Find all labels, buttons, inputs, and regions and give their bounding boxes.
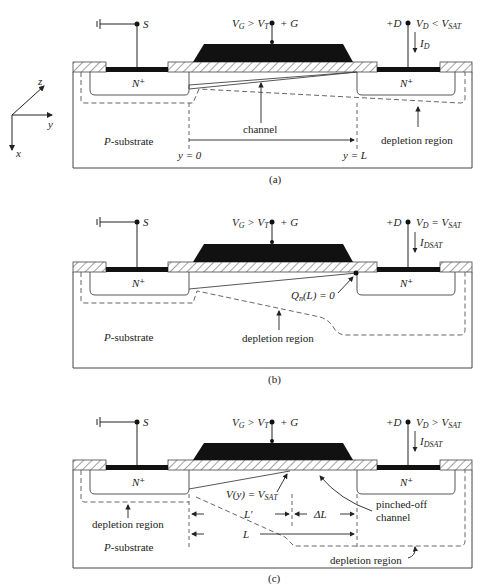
field-oxide-right <box>440 62 472 72</box>
panel-a: N⁺ N⁺ channel depletion region P-substra… <box>73 17 472 186</box>
gate-terminal-label: + G <box>280 416 298 428</box>
channel-region <box>189 471 290 489</box>
source-terminal-label: S <box>143 416 149 428</box>
caption-c: (c) <box>268 572 281 585</box>
drain-condition: VD = VSAT <box>416 216 462 230</box>
y0-label: y = 0 <box>177 149 202 161</box>
channel-region <box>189 72 357 89</box>
gate-electrode <box>193 443 353 460</box>
pinch-label: Qn(L) = 0 <box>291 289 335 303</box>
gate-terminal-label: + G <box>280 216 298 228</box>
panel-c: N⁺ N⁺ V(y) = VSAT pinched-off channel de… <box>73 416 472 585</box>
current-label: ID <box>419 37 430 51</box>
n-plus-left-label: N⁺ <box>131 77 145 89</box>
channel-region <box>189 273 357 289</box>
gate-condition: VG > VT <box>232 216 269 230</box>
gate-oxide <box>168 62 377 72</box>
depletion-region-label: depletion region <box>381 134 453 146</box>
pinch-off-point <box>354 271 359 276</box>
delta-l-label: ΔL <box>313 508 327 520</box>
vsat-label: V(y) = VSAT <box>226 488 278 502</box>
substrate-label: P-substrate <box>103 541 154 553</box>
channel-label: channel <box>376 511 410 523</box>
depletion-region-label: depletion region <box>242 332 314 344</box>
n-plus-left-label: N⁺ <box>131 476 145 488</box>
depletion-right-label: depletion region <box>330 554 402 566</box>
drain-terminal-label: +D <box>386 216 401 228</box>
gate-condition: VG > VT <box>232 416 269 430</box>
substrate-label: P-substrate <box>103 135 154 147</box>
caption-b: (b) <box>268 373 281 386</box>
channel-label: channel <box>243 123 277 135</box>
n-plus-left-label: N⁺ <box>131 277 145 289</box>
current-label: IDSAT <box>419 236 443 250</box>
drain-terminal-label: +D <box>386 416 401 428</box>
drain-contact <box>377 67 440 72</box>
source-contact <box>106 67 168 72</box>
gate-terminal-label: + G <box>280 17 298 29</box>
drain-condition: VD > VSAT <box>416 416 462 430</box>
source-terminal-label: S <box>143 18 149 30</box>
source-terminal-label: S <box>143 216 149 228</box>
y-axis-label: y <box>47 118 53 130</box>
yL-label: y = L <box>342 149 367 161</box>
drain-condition: VD < VSAT <box>416 17 462 31</box>
caption-a: (a) <box>269 173 282 186</box>
l-prime-label: L' <box>243 508 253 520</box>
n-plus-right-label: N⁺ <box>399 277 413 289</box>
n-plus-right-label: N⁺ <box>399 476 413 488</box>
n-plus-right-label: N⁺ <box>399 77 413 89</box>
field-oxide-left <box>73 62 106 72</box>
x-axis-label: x <box>15 147 21 159</box>
gate-electrode <box>193 44 353 62</box>
depletion-left-label: depletion region <box>92 518 164 530</box>
mosfet-saturation-diagram: z y x N⁺ N⁺ channel d <box>0 0 483 586</box>
z-axis-label: z <box>37 75 43 87</box>
drain-terminal-label: +D <box>386 17 401 29</box>
pinched-off-label: pinched-off <box>376 498 427 510</box>
current-label: IDSAT <box>419 435 443 449</box>
panel-b: N⁺ N⁺ Qn(L) = 0 depletion region P-subst… <box>73 216 472 386</box>
gate-electrode <box>193 244 353 262</box>
substrate-label: P-substrate <box>103 331 154 343</box>
gate-condition: VG > VT <box>232 17 269 31</box>
coordinate-axes: z y x <box>12 75 53 159</box>
l-label: L <box>242 528 249 540</box>
